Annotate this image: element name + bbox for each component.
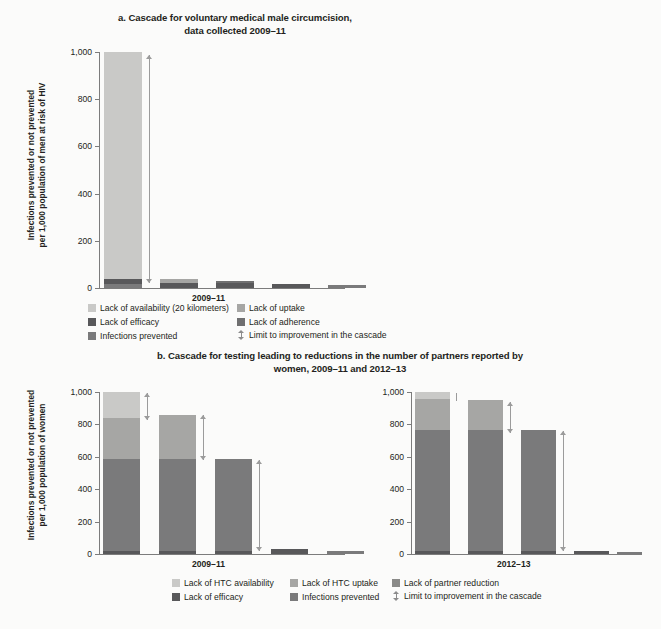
- panel-a-legend-item-2[interactable]: Lack of efficacy: [88, 317, 159, 327]
- panel-b-legend-label-3: Lack of efficacy: [184, 592, 243, 602]
- panel-a-legend-item-5[interactable]: Limit to improvement in the cascade: [237, 330, 387, 340]
- legend-swatch-lack-of-partner-reduction-icon: [392, 579, 400, 587]
- panel-b-legend-label-2: Lack of partner reduction: [404, 578, 499, 588]
- panel-b-legend-label-4: Infections prevented: [302, 592, 379, 602]
- legend-swatch-lack-of-uptake-icon: [237, 304, 245, 312]
- legend-swatch-infections-prevented-icon: [88, 332, 96, 340]
- panel-b-legend-label-5: Limit to improvement in the cascade: [404, 591, 542, 601]
- legend-swatch-lack-of-efficacy-icon: [88, 318, 96, 326]
- legend-swatch-lack-of-htc-uptake-icon: [290, 579, 298, 587]
- panel-a-legend-item-1[interactable]: Lack of uptake: [237, 303, 305, 313]
- legend-swatch-b-lack-of-efficacy-icon: [172, 593, 180, 601]
- panel-b-legend-label-0: Lack of HTC availability: [184, 578, 274, 588]
- panel-b-legend-item-0[interactable]: Lack of HTC availability: [172, 578, 274, 588]
- legend-swatch-lack-of-availability-icon: [88, 304, 96, 312]
- panel-b: b. Cascade for testing leading to reduct…: [0, 350, 661, 629]
- panel-b-legend-item-4[interactable]: Infections prevented: [290, 592, 379, 602]
- panel-b-legend-item-1[interactable]: Lack of HTC uptake: [290, 578, 378, 588]
- panel-b-legend-label-1: Lack of HTC uptake: [302, 578, 378, 588]
- panel-b-legend-item-2[interactable]: Lack of partner reduction: [392, 578, 499, 588]
- legend-swatch-b-infections-prevented-icon: [290, 593, 298, 601]
- panel-a-legend-item-0[interactable]: Lack of availability (20 kilometers): [88, 303, 229, 313]
- panel-a-legend-label-5: Limit to improvement in the cascade: [249, 330, 387, 340]
- panel-b-legend-item-3[interactable]: Lack of efficacy: [172, 592, 243, 602]
- panel-a-legend-label-4: Infections prevented: [100, 331, 177, 341]
- legend-b-limit-arrow-icon: [392, 591, 400, 601]
- panel-a-legend: Lack of availability (20 kilometers) Lac…: [0, 0, 661, 350]
- panel-a-legend-label-2: Lack of efficacy: [100, 317, 159, 327]
- panel-a-legend-label-3: Lack of adherence: [249, 317, 320, 327]
- legend-swatch-lack-of-adherence-icon: [237, 318, 245, 326]
- legend-swatch-lack-of-htc-availability-icon: [172, 579, 180, 587]
- panel-a-legend-label-1: Lack of uptake: [249, 303, 305, 313]
- panel-a-legend-item-4[interactable]: Infections prevented: [88, 331, 177, 341]
- panel-a-legend-item-3[interactable]: Lack of adherence: [237, 317, 320, 327]
- legend-limit-arrow-icon: [237, 330, 245, 340]
- panel-b-legend: Lack of HTC availability Lack of HTC upt…: [0, 350, 661, 629]
- panel-b-legend-item-5[interactable]: Limit to improvement in the cascade: [392, 591, 542, 601]
- panel-a-legend-label-0: Lack of availability (20 kilometers): [100, 303, 229, 313]
- panel-a: a. Cascade for voluntary medical male ci…: [0, 0, 661, 350]
